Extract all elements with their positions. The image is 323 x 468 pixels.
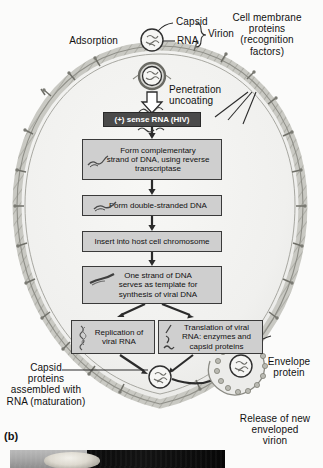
step-line: Form complementary — [120, 146, 196, 155]
step-line: Translation of viral — [184, 323, 249, 332]
label-line: Release of new — [240, 413, 310, 424]
label-line: Penetration — [169, 84, 221, 95]
label-line: enveloped — [251, 424, 298, 435]
label-line: uncoating — [169, 95, 213, 106]
label-cell-membrane-proteins: Cell membrane proteins (recognition fact… — [215, 12, 319, 57]
flowchart-step-replication-viral-rna: Replication of viral RNA — [71, 320, 155, 354]
label-envelope-protein: Envelope protein — [256, 356, 322, 378]
step-line: transcriptase — [135, 164, 181, 173]
rna-coil-icon — [75, 325, 91, 351]
step-line: viral RNA — [102, 337, 136, 346]
protein-icon — [162, 324, 176, 352]
panel-label: (b) — [4, 430, 44, 442]
flowchart-step-double-stranded-dna: Form double-stranded DNA — [82, 195, 222, 216]
flowchart-step-insert-host-chromosome: Insert into host cell chromosome — [82, 231, 222, 252]
leader-capsid — [158, 23, 173, 31]
label-line: proteins — [28, 373, 64, 384]
dna-squiggle-icon — [93, 200, 117, 212]
figure-panel-b: (+) sense RNA (HIV) Form complementary s… — [0, 0, 323, 468]
label-line: Envelope — [268, 356, 311, 367]
label-penetration-uncoating: Penetration uncoating — [169, 84, 259, 106]
label-line: virion — [263, 435, 288, 446]
flowchart-step-sense-rna: (+) sense RNA (HIV) — [103, 112, 201, 127]
label-line: assembled with — [11, 384, 81, 395]
step-line: serves as template for — [119, 280, 198, 289]
label-line: protein — [273, 367, 304, 378]
label-line: RNA (maturation) — [7, 396, 86, 407]
label-release-of-new-virion: Release of new enveloped virion — [227, 413, 323, 447]
label-line: Capsid — [30, 362, 62, 373]
step-line: capsid proteins — [190, 342, 244, 351]
step-line: Replication of — [95, 328, 143, 337]
label-line: Cell membrane — [232, 12, 301, 23]
step-line: strand of DNA, using reverse — [107, 155, 210, 164]
step-line: synthesis of viral DNA — [119, 290, 197, 299]
label-line: proteins — [249, 23, 285, 34]
free-virion-icon — [141, 29, 163, 51]
flowchart-step-template-synthesis: One strand of DNA serves as template for… — [82, 266, 222, 304]
label-adsorption: Adsorption — [28, 35, 118, 46]
label-capsid-proteins-assembled: Capsid proteins assembled with RNA (matu… — [0, 362, 92, 407]
label-line: factors) — [250, 46, 284, 57]
mature-virion-icon — [149, 366, 171, 388]
flowchart-step-translation-viral-rna: Translation of viral RNA: enzymes and ca… — [158, 320, 263, 354]
electron-micrograph — [10, 450, 225, 468]
step-line: RNA: enzymes and — [182, 332, 251, 341]
rna-squiggle-icon — [87, 153, 109, 169]
step-line: One strand of DNA — [124, 271, 192, 280]
flowchart-step-reverse-transcriptase: Form complementary strand of DNA, using … — [82, 139, 222, 180]
dna-strand-icon — [89, 272, 115, 286]
label-line: (recognition — [240, 34, 293, 45]
micrograph-grain — [10, 450, 225, 468]
